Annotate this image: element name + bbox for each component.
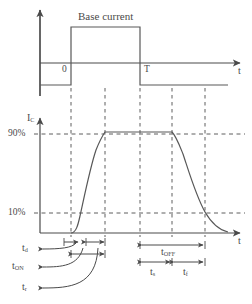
ton-leader [43,248,83,267]
tr-label: tr [22,282,27,292]
origin-label: 0 [62,65,67,75]
base-current-waveform [40,27,228,85]
toff-sub: OFF [164,250,175,257]
guide-lines-group [71,88,205,237]
switching-waveform-figure: Base current 0 T t IC 90% 10% t td tON t… [0,0,252,304]
tf-label: tf [183,267,188,277]
td-leader [43,243,76,249]
ton-sub: ON [15,264,24,271]
ts-sub: s [153,270,155,277]
toff-label: tOFF [161,247,175,257]
ton-label: tON [12,261,24,271]
top-x-axis-label: t [238,66,241,76]
ic-sub: C [30,116,34,123]
ic-axis-label: IC [27,113,34,123]
td-sub: d [25,246,28,253]
base-current-label: Base current [78,11,133,22]
top-plot-group [40,10,240,96]
tf-sub: f [186,270,188,277]
waveform-svg [0,0,252,304]
period-label: T [144,65,150,75]
timing-arrows-left [43,238,105,288]
td-label: td [22,243,28,253]
tr-sub: r [25,285,27,292]
tick-label-90: 90% [8,129,25,139]
bottom-x-axis-label: t [238,236,241,246]
tick-label-10: 10% [8,208,25,218]
collector-current-waveform [71,132,228,233]
ts-label: ts [150,267,155,277]
